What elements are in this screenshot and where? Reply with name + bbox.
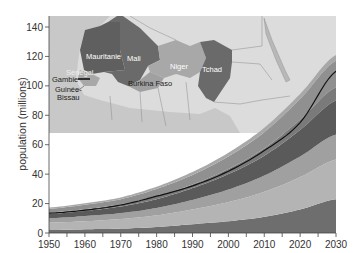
x-tick-label: 1990 bbox=[181, 239, 204, 250]
y-ticks: 020406080100120140 bbox=[26, 22, 49, 239]
label-burkina: Burkina Faso bbox=[128, 79, 172, 88]
y-tick-label: 80 bbox=[32, 110, 44, 121]
population-chart: Mauritanie Mali Niger Tchad Sénégal Gamb… bbox=[0, 0, 362, 253]
x-tick-label: 1960 bbox=[74, 239, 97, 250]
x-ticks: 195019601970198019902000201020202030 bbox=[38, 233, 348, 250]
label-niger: Niger bbox=[170, 62, 188, 71]
x-tick-label: 2020 bbox=[289, 239, 312, 250]
label-tchad: Tchad bbox=[202, 65, 222, 74]
y-tick-label: 60 bbox=[32, 139, 44, 150]
label-guinee-2: Bissau bbox=[57, 93, 80, 102]
label-mali: Mali bbox=[127, 54, 141, 63]
y-tick-label: 40 bbox=[32, 169, 44, 180]
x-tick-label: 2000 bbox=[217, 239, 240, 250]
x-tick-label: 2010 bbox=[253, 239, 276, 250]
label-mauritanie: Mauritanie bbox=[86, 52, 121, 61]
label-gambie: Gambie bbox=[52, 75, 78, 84]
y-tick-label: 140 bbox=[26, 22, 43, 33]
x-tick-label: 1980 bbox=[146, 239, 169, 250]
y-tick-label: 0 bbox=[37, 228, 43, 239]
x-tick-label: 1950 bbox=[38, 239, 61, 250]
y-axis-label: population (millions) bbox=[16, 77, 28, 170]
x-tick-label: 2030 bbox=[325, 239, 348, 250]
y-tick-label: 120 bbox=[26, 51, 43, 62]
region-mauritanie bbox=[80, 22, 125, 74]
y-tick-label: 100 bbox=[26, 80, 43, 91]
x-tick-label: 1970 bbox=[110, 239, 133, 250]
y-tick-label: 20 bbox=[32, 198, 44, 209]
